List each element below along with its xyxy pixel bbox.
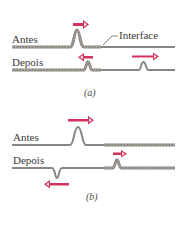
panel-b-before-label: Antes xyxy=(13,132,39,143)
panel-a-before-label: Antes xyxy=(12,34,38,45)
panel-b-incident-arrow xyxy=(68,116,94,125)
interface-leader xyxy=(103,36,118,45)
panel-a-after-label: Depois xyxy=(12,57,43,68)
panel-b-after-label: Depois xyxy=(13,155,44,166)
panel-b-caption: (b) xyxy=(86,192,98,202)
panel-b-reflected-arrow xyxy=(44,180,69,189)
panel-a-incident-arrow xyxy=(73,20,89,29)
panel-a-caption: (a) xyxy=(84,88,96,98)
interface-label: Interface xyxy=(119,30,158,41)
panel-a-transmitted-arrow xyxy=(132,53,159,61)
panel-b-transmitted-arrow xyxy=(113,150,127,158)
panel-a-reflected-arrow xyxy=(78,53,93,62)
